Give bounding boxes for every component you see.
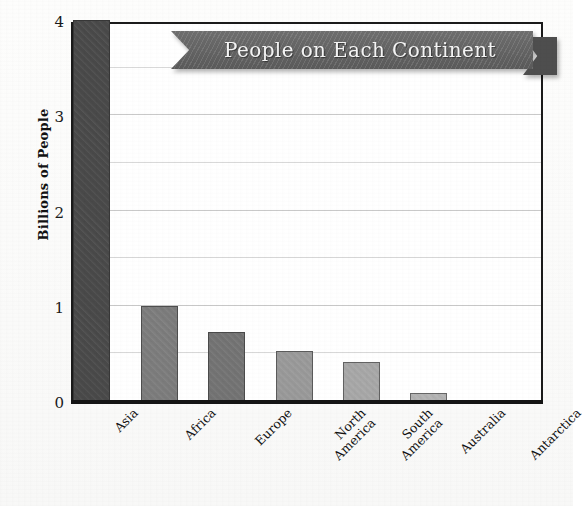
y-tick-label: 0 <box>34 394 64 412</box>
bar-africa <box>141 306 178 401</box>
x-tick-label: North America <box>321 406 378 463</box>
x-tick-label: Asia <box>112 406 141 435</box>
y-tick-label: 4 <box>34 13 64 31</box>
y-tick-label: 1 <box>34 299 64 317</box>
x-tick-label: Europe <box>252 406 294 448</box>
bar-series <box>73 24 541 401</box>
y-tick-label: 3 <box>34 108 64 126</box>
x-axis-tick-labels: AsiaAfricaEuropeNorth AmericaSouth Ameri… <box>71 406 543 506</box>
x-tick-label: Africa <box>182 406 219 443</box>
x-tick-label: South America <box>389 406 446 463</box>
plot-area <box>71 22 543 403</box>
x-tick-label: Australia <box>458 406 508 456</box>
bar-north-america <box>276 351 313 401</box>
bar-europe <box>208 332 245 401</box>
bar-asia <box>73 20 110 401</box>
chart-title-ribbon: People on Each Continent <box>171 31 557 76</box>
ribbon-body: People on Each Continent <box>171 31 533 69</box>
bar-australia <box>410 393 447 401</box>
y-tick-label: 2 <box>34 204 64 222</box>
x-tick-label: Antarctica <box>528 406 584 463</box>
bar-south-america <box>343 362 380 401</box>
chart-title: People on Each Continent <box>208 38 496 62</box>
y-axis-tick-labels: 01234 <box>26 22 64 403</box>
